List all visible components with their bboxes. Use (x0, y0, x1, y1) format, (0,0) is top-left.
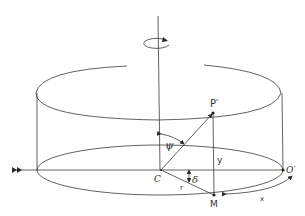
label-C: C (154, 174, 161, 184)
point-C (160, 169, 162, 171)
double-arrow-icon (12, 167, 22, 173)
label-y: y (217, 155, 223, 165)
point-O-prime (281, 168, 284, 171)
line-PM (213, 113, 214, 195)
label-x: x (260, 195, 264, 203)
cylinder-wall-right (282, 93, 283, 170)
label-r: r (180, 184, 183, 192)
cylinder-diagram: P′ C M O′ ψ δ y r x (0, 0, 305, 216)
rotation-axis (158, 16, 160, 170)
rotation-arrow-icon (144, 37, 169, 48)
line-CM (161, 170, 214, 195)
point-M (212, 193, 215, 196)
label-psi: ψ (165, 139, 174, 152)
point-P-prime (211, 111, 214, 114)
label-O-prime: O′ (286, 165, 295, 175)
label-delta: δ (192, 174, 198, 185)
label-M: M (210, 199, 218, 209)
label-P-prime: P′ (210, 98, 219, 109)
